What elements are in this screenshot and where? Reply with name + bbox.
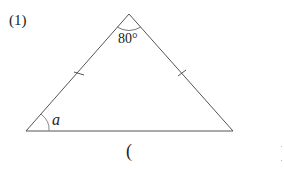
base-angle-label: a [52,111,60,129]
triangle-figure [0,0,284,169]
apex-angle-arc [117,27,141,31]
answer-blank: ( [126,141,132,162]
speck [281,146,282,147]
apex-angle-label: 80° [118,31,138,47]
problem-number: (1) [9,12,27,29]
speck [281,160,282,161]
base-angle-arc [41,114,49,131]
